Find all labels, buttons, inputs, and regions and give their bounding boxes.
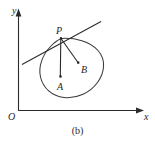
point-marker-B [77, 62, 79, 64]
segment-P-to-B [61, 38, 78, 62]
pa-segment [60, 38, 61, 76]
point-label-A: A [57, 82, 63, 92]
x-axis [18, 108, 144, 114]
pb-segment [61, 38, 78, 62]
geometry-figure: y x O P A B (b) [0, 0, 155, 144]
y-axis-arrow-icon [16, 9, 22, 17]
closed-oval-curve [40, 38, 104, 97]
y-axis [16, 9, 22, 111]
y-axis-label: y [12, 6, 16, 16]
origin-label: O [8, 112, 15, 122]
figure-drawing-area [0, 0, 155, 144]
segment-P-to-A [60, 38, 61, 76]
point-marker-A [59, 75, 61, 77]
point-label-B: B [81, 65, 87, 75]
oval-outline [40, 38, 104, 97]
x-axis-label: x [144, 112, 148, 122]
x-axis-arrow-icon [136, 108, 144, 114]
point-marker-P [60, 37, 62, 39]
figure-caption: (b) [0, 126, 155, 136]
point-label-P: P [56, 26, 62, 36]
